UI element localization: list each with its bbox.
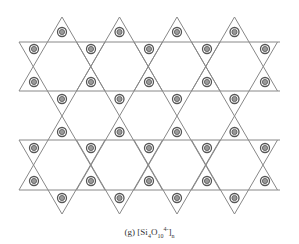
atom-circle-icon [261,177,270,186]
atom-circle-icon [87,144,96,153]
atom-circle-icon [203,144,212,153]
caption-label: (g) [125,227,136,237]
atom-circle-icon [145,45,154,54]
atom-circle-icon [173,28,182,37]
atom-circle-icon [230,194,239,203]
atom-circle-icon [115,95,124,104]
caption-formula: [Si4O104-]n [137,227,174,237]
atom-circle-icon [30,45,39,54]
atom-circle-icon [58,95,67,104]
lattice-edge [235,116,278,190]
atom-circle-icon [58,128,67,137]
atom-circle-icon [145,177,154,186]
atom-circle-icon [30,177,39,186]
atom-circle-icon [87,78,96,87]
atom-circle-icon [230,28,239,37]
atom-circle-icon [115,194,124,203]
atom-circle-icon [261,144,270,153]
atom-circle-icon [203,45,212,54]
atom-circle-icon [203,78,212,87]
atom-circle-icon [115,128,124,137]
lattice-edge [235,140,278,214]
atom-circle-icon [58,194,67,203]
atom-circle-icon [30,144,39,153]
atom-circle-icon [173,95,182,104]
atom-circle-icon [87,45,96,54]
atom-circle-icon [58,28,67,37]
silicate-sheet-diagram [0,0,299,244]
atom-circle-icon [261,78,270,87]
atom-circle-icon [145,144,154,153]
lattice-edge [19,140,62,214]
atom-circle-icon [145,78,154,87]
atom-circle-icon [173,128,182,137]
atom-circle-icon [173,194,182,203]
lattice-edge [19,116,62,190]
atom-circle-icon [115,28,124,37]
atom-circle-icon [87,177,96,186]
figure-caption: (g) [Si4O104-]n [0,226,299,239]
atom-circle-icon [203,177,212,186]
atom-circle-icon [30,78,39,87]
atom-circle-icon [230,128,239,137]
atom-circle-icon [230,95,239,104]
atom-circle-icon [261,45,270,54]
